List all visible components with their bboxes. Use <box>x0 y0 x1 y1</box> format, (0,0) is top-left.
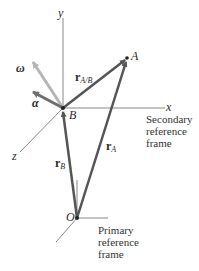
secondary-caption-line-3: frame <box>146 137 192 149</box>
secondary-caption-line-2: reference <box>146 125 192 137</box>
point-o-label: O <box>66 211 75 223</box>
z-axis-label: z <box>12 150 17 162</box>
r-a-b-sub: A/B <box>80 76 92 85</box>
alpha-label: α <box>32 97 39 109</box>
relative-motion-diagram: y x z A B O rA/B rB rA ω α Secondary ref… <box>0 0 199 271</box>
x-axis-label: x <box>166 101 171 113</box>
r-a-sub: A <box>111 145 116 154</box>
primary-caption-line-2: reference <box>98 236 139 248</box>
r-b-label: rB <box>55 157 65 173</box>
y-axis-label: y <box>58 7 63 19</box>
r-b-sub: B <box>60 162 65 171</box>
r-a-b-label: rA/B <box>75 71 92 87</box>
point-a-label: A <box>131 50 138 62</box>
omega-label: ω <box>16 62 25 74</box>
r-a-label: rA <box>106 140 116 156</box>
point-a-dot <box>125 56 129 60</box>
secondary-caption-line-1: Secondary <box>146 113 192 125</box>
point-b-label: B <box>69 109 76 121</box>
secondary-frame-caption: Secondary reference frame <box>146 113 192 149</box>
primary-caption-line-3: frame <box>98 248 139 260</box>
primary-frame-caption: Primary reference frame <box>98 224 139 260</box>
point-b-dot <box>61 106 65 110</box>
r-a-b-vector <box>63 60 125 108</box>
point-o-dot <box>75 216 79 220</box>
primary-caption-line-1: Primary <box>98 224 139 236</box>
